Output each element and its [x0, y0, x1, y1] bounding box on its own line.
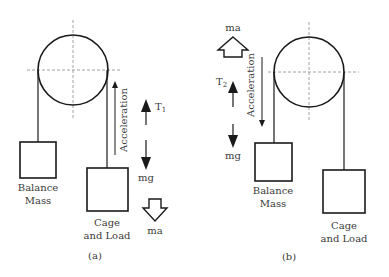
inertial-force-hollow-arrow-icon: [143, 199, 167, 221]
balance-mass-label: Balance: [18, 182, 59, 193]
tension-label: T2: [216, 76, 227, 89]
panel-b: Balance Mass Cage and Load (b) ma Accele…: [216, 22, 368, 262]
panel-caption: (a): [88, 250, 102, 261]
inertial-force-label: ma: [147, 225, 162, 236]
cage-box: [323, 170, 365, 213]
panel-caption: (b): [282, 251, 296, 262]
inertial-force-label: ma: [225, 22, 240, 33]
cage-label: Cage: [94, 217, 120, 228]
cage-label: Cage: [331, 220, 357, 231]
arrowhead-icon: [259, 120, 265, 127]
arrowhead-icon: [112, 81, 118, 88]
balance-mass-box: [255, 143, 292, 181]
acceleration-label: Acceleration: [118, 88, 129, 153]
acceleration-label: Acceleration: [245, 53, 256, 118]
arrowhead-icon: [228, 135, 238, 148]
balance-mass-label: Balance: [253, 185, 294, 196]
balance-mass-box: [20, 142, 56, 178]
balance-mass-label-2: Mass: [25, 195, 51, 206]
arrowhead-icon: [228, 81, 238, 93]
cage-label-2: and Load: [83, 230, 131, 241]
arrowhead-icon: [141, 99, 151, 112]
inertial-force-hollow-arrow-icon: [218, 37, 248, 57]
cage-label-2: and Load: [320, 233, 368, 244]
weight-label: mg: [138, 172, 154, 183]
panel-a: Balance Mass Cage and Load (a) Accelerat…: [18, 20, 167, 261]
arrowhead-icon: [141, 157, 151, 170]
cage-box: [87, 168, 128, 211]
tension-label: T1: [155, 101, 166, 114]
balance-mass-label-2: Mass: [260, 198, 286, 209]
weight-label: mg: [225, 150, 241, 161]
hoist-diagram: Balance Mass Cage and Load (a) Accelerat…: [0, 0, 389, 277]
